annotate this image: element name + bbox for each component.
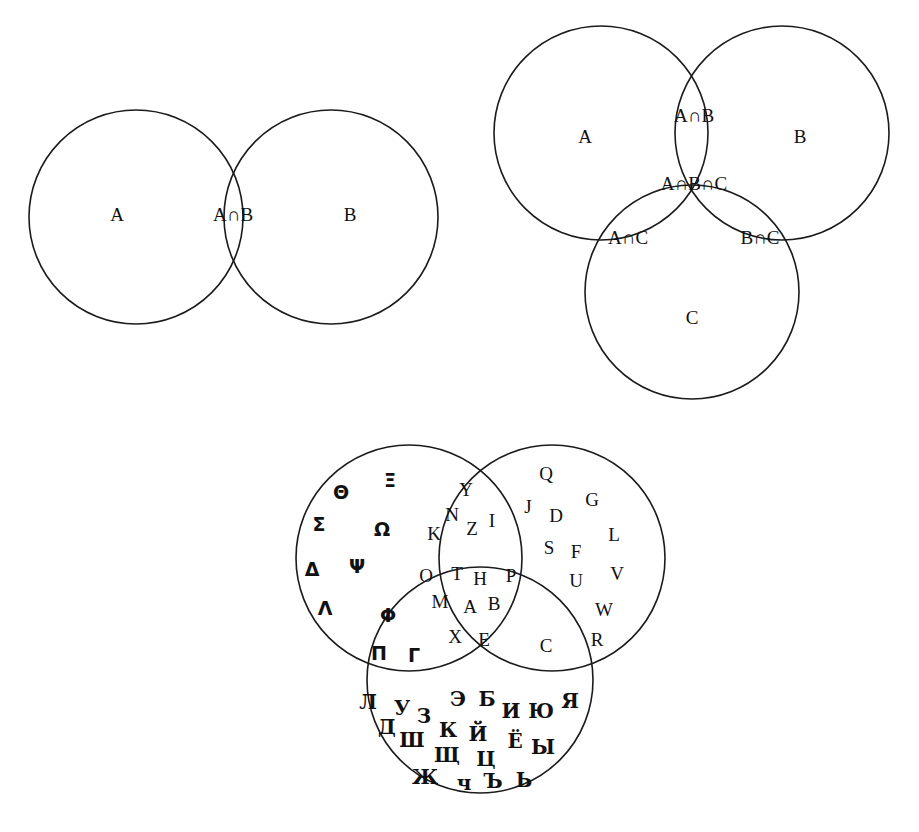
- letter-all-three-7: X: [448, 626, 462, 647]
- letter-all-three-1: T: [451, 563, 463, 584]
- region-greek-latin: YNZIK: [427, 479, 495, 544]
- letter-greek-only-6: Λ: [318, 597, 333, 619]
- letter-cyrillic-only-9: Ш: [399, 728, 424, 752]
- letter-greek-latin-3: I: [489, 510, 495, 531]
- region-cyrillic-only: ЛУЗЭБИЮЯДШКЙЁЫЩЦЖчЪЬ: [359, 687, 579, 795]
- letter-cyrillic-only-11: Й: [469, 720, 488, 746]
- label-set-a: A: [578, 126, 592, 147]
- letter-cyrillic-only-1: У: [394, 696, 410, 720]
- letter-cyrillic-only-5: И: [502, 699, 521, 723]
- letter-latin-only-0: Q: [539, 463, 553, 484]
- letter-latin-only-4: S: [544, 537, 555, 558]
- letter-latin-only-7: U: [569, 570, 583, 591]
- letter-greek-only-5: Ψ: [349, 555, 365, 577]
- region-latin-cyrillic: C: [540, 635, 553, 656]
- letter-greek-latin-2: Z: [466, 518, 478, 539]
- letter-cyrillic-only-14: Щ: [434, 743, 460, 767]
- label-intersection-ab: A∩B: [213, 204, 253, 225]
- letter-greek-cyrillic-0: Φ: [380, 604, 396, 626]
- label-set-b: B: [794, 126, 807, 147]
- letter-all-three-5: A: [463, 596, 477, 617]
- two-set-venn-diagram: ABA∩B: [0, 0, 470, 360]
- letter-all-three-3: P: [506, 565, 517, 586]
- letter-latin-cyrillic-0: C: [540, 635, 553, 656]
- letter-cyrillic-only-6: Ю: [528, 699, 554, 723]
- letter-latin-only-2: D: [549, 505, 563, 526]
- letter-cyrillic-only-13: Ы: [531, 735, 555, 759]
- label-intersection-bc: B∩C: [740, 227, 779, 248]
- label-set-b: B: [344, 204, 357, 225]
- label-intersection-ac: A∩C: [608, 227, 648, 248]
- letter-greek-only-1: Ξ: [384, 469, 396, 491]
- letter-all-three-0: O: [419, 565, 433, 586]
- letter-cyrillic-only-10: К: [439, 718, 457, 742]
- venn-circle-a: [29, 110, 243, 324]
- letter-cyrillic-only-18: Ъ: [483, 769, 502, 793]
- letter-greek-cyrillic-1: Π: [371, 642, 387, 664]
- region-latin-only: QJDGSFLUVWR: [524, 463, 624, 650]
- letter-greek-only-4: Δ: [305, 558, 320, 580]
- label-set-c: C: [686, 307, 699, 328]
- venn-circle-b: [675, 26, 889, 240]
- letter-greek-latin-1: N: [445, 504, 459, 525]
- venn-circle-b: [224, 110, 438, 324]
- letter-all-three-2: H: [473, 568, 487, 589]
- letter-latin-only-3: G: [585, 489, 599, 510]
- letter-latin-only-6: L: [608, 524, 620, 545]
- letter-greek-cyrillic-2: Γ: [408, 644, 420, 666]
- alphabet-venn-diagram: ΘΞΣΩΔΨΛYNZIKQJDGSFLUVWROTHPMABXEΦΠΓCЛУЗЭ…: [280, 420, 700, 820]
- venn-diagram-page: ABA∩B ABCA∩BA∩CB∩CA∩B∩C ΘΞΣΩΔΨΛYNZIKQJDG…: [0, 0, 919, 832]
- region-greek-cyrillic: ΦΠΓ: [371, 604, 420, 666]
- letter-greek-latin-0: Y: [459, 479, 473, 500]
- letter-latin-only-9: W: [595, 599, 613, 620]
- letter-cyrillic-only-16: Ж: [412, 765, 439, 789]
- letter-cyrillic-only-2: З: [417, 704, 431, 728]
- letter-latin-only-10: R: [591, 629, 604, 650]
- letter-cyrillic-only-3: Э: [450, 687, 466, 711]
- letter-latin-only-5: F: [571, 541, 582, 562]
- letter-greek-only-3: Ω: [374, 518, 390, 540]
- letter-cyrillic-only-4: Б: [478, 687, 495, 711]
- letter-greek-only-0: Θ: [333, 481, 349, 503]
- letter-all-three-6: B: [488, 593, 501, 614]
- letter-all-three-8: E: [478, 629, 490, 650]
- letter-cyrillic-only-15: Ц: [476, 747, 495, 771]
- letter-cyrillic-only-12: Ё: [507, 729, 522, 753]
- letter-cyrillic-only-8: Д: [378, 715, 396, 739]
- venn-circle-a: [494, 26, 708, 240]
- letter-cyrillic-only-17: ч: [457, 771, 472, 795]
- label-intersection-abc: A∩B∩C: [661, 173, 728, 194]
- venn-circle-c: [585, 185, 799, 399]
- letter-cyrillic-only-19: Ь: [516, 768, 533, 792]
- three-set-venn-diagram: ABCA∩BA∩CB∩CA∩B∩C: [460, 0, 919, 420]
- letter-cyrillic-only-0: Л: [359, 690, 377, 714]
- letter-all-three-4: M: [432, 591, 449, 612]
- label-set-a: A: [110, 204, 124, 225]
- letter-greek-only-2: Σ: [313, 513, 326, 535]
- letter-latin-only-1: J: [524, 496, 531, 517]
- label-intersection-ab: A∩B: [674, 105, 714, 126]
- letter-latin-only-8: V: [610, 563, 624, 584]
- letter-cyrillic-only-7: Я: [561, 689, 579, 713]
- letter-greek-latin-4: K: [427, 523, 441, 544]
